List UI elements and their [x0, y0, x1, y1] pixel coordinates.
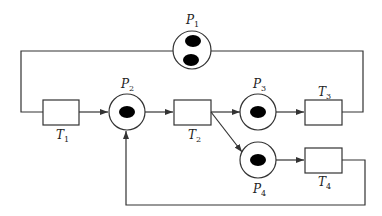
arc-t2-p4 — [211, 112, 242, 152]
token-p2 — [119, 106, 135, 118]
label-p3: P3 — [252, 77, 266, 93]
transition-t3 — [305, 100, 342, 125]
transition-t4 — [305, 148, 342, 173]
arc-t3-p1 — [211, 51, 363, 112]
transition-t1 — [43, 100, 79, 125]
label-t3: T3 — [318, 85, 331, 101]
label-t4: T4 — [318, 175, 331, 191]
token-p4 — [250, 154, 266, 166]
label-p1: P1 — [185, 13, 199, 29]
token-p3 — [250, 106, 266, 118]
token-p1-a — [185, 35, 201, 47]
label-t1: T1 — [56, 128, 69, 144]
label-p4: P4 — [252, 182, 266, 198]
petri-net-diagram: P1 P2 P3 P4 T1 T2 T3 T4 — [0, 0, 382, 216]
transition-t2 — [174, 100, 211, 125]
arc-p1-t1 — [21, 51, 173, 112]
label-t2: T2 — [188, 128, 201, 144]
token-p1-b — [183, 54, 199, 66]
arc-t4-p2 — [126, 131, 365, 205]
label-p2: P2 — [120, 77, 134, 93]
